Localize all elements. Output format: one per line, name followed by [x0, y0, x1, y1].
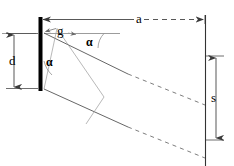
label-angle-alpha-upper: α — [86, 36, 93, 48]
diagram-canvas — [0, 0, 234, 166]
diffracted-ray-lower — [44, 89, 205, 158]
dimension-a — [43, 15, 205, 24]
optics-diagram: a d s g α α — [0, 0, 234, 166]
diffracted-ray-middle — [44, 29, 104, 125]
angle-arc-upper — [98, 34, 104, 49]
label-distance-a: a — [136, 12, 142, 25]
label-grating-constant-g: g — [57, 24, 64, 37]
diffracted-ray-upper — [44, 33, 205, 105]
label-angle-alpha-lower: α — [46, 56, 53, 68]
label-spot-separation-s: s — [211, 91, 216, 104]
label-slit-width-d: d — [9, 54, 16, 67]
grating-plate — [39, 17, 43, 91]
